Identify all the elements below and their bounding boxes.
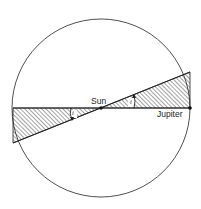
sun-point-icon	[99, 106, 103, 110]
jupiter-point-icon	[188, 106, 192, 110]
sun-label: Sun	[91, 97, 106, 106]
jupiter-label: Jupiter	[157, 110, 183, 119]
inclination-label-left: i	[72, 110, 74, 117]
inclination-label-right: i	[130, 99, 132, 106]
orbital-inclination-diagram: Sun Jupiter i i	[0, 0, 201, 209]
